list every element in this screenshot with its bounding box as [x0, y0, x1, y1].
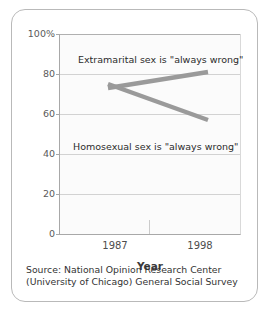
source-line-2: (University of Chicago) General Social S… [26, 276, 248, 288]
source-line-1: Source: National Opinion Research Center [26, 264, 248, 276]
ytick-label-60: 60 [43, 109, 55, 119]
gridline-0: 0 [60, 234, 240, 235]
xaxis-center-tick [149, 220, 150, 234]
ytick-label-100: 100% [28, 29, 55, 39]
series-label-extramarital: Extramarital sex is "always wrong" [78, 54, 244, 65]
series-label-homosexual: Homosexual sex is "always wrong" [73, 141, 238, 152]
source-note: Source: National Opinion Research Center… [26, 264, 248, 289]
ytick-mark-0 [56, 234, 60, 235]
series-line-extramarital [108, 72, 208, 88]
ytick-label-80: 80 [43, 69, 55, 79]
xtick-label-1987: 1987 [102, 240, 127, 251]
ytick-label-40: 40 [43, 149, 55, 159]
chart-card: 100% 80 60 40 20 0 Extrama [11, 9, 258, 302]
xtick-label-1998: 1998 [187, 240, 212, 251]
ytick-label-0: 0 [49, 229, 55, 239]
plot-area: 100% 80 60 40 20 0 Extrama [59, 34, 241, 235]
ytick-label-20: 20 [43, 189, 55, 199]
series-line-homosexual [108, 84, 208, 120]
